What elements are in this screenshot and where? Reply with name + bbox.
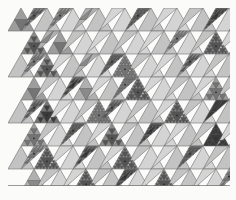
- vertex-dot: [59, 15, 61, 17]
- vertex-dot: [33, 107, 35, 109]
- bottom-margin-mask: [0, 186, 236, 200]
- vertex-dot: [150, 130, 152, 132]
- vertex-dot: [111, 61, 113, 63]
- vertex-dot: [98, 114, 100, 116]
- vertex-dot: [215, 91, 217, 93]
- vertex-dot: [33, 137, 35, 139]
- vertex-dot: [72, 84, 74, 86]
- vertex-dot: [111, 107, 113, 109]
- vertex-dot: [137, 15, 139, 17]
- vertex-dot: [189, 153, 191, 155]
- left-margin-mask: [0, 0, 8, 200]
- vertex-dot: [85, 183, 87, 185]
- vertex-dot: [215, 45, 217, 47]
- vertex-dot: [124, 176, 126, 178]
- top-margin-mask: [0, 0, 236, 8]
- vertex-dot: [163, 183, 165, 185]
- vertex-dot: [46, 68, 48, 70]
- vertex-dot: [176, 114, 178, 116]
- vertex-dot: [111, 137, 113, 139]
- vertex-dot: [137, 91, 139, 93]
- vertex-dot: [124, 68, 126, 70]
- vertex-dot: [215, 15, 217, 17]
- vertex-dot: [46, 160, 48, 162]
- vertex-dot: [33, 61, 35, 63]
- tessellation-figure: [0, 0, 236, 200]
- vertex-dot: [72, 130, 74, 132]
- vertex-dot: [85, 153, 87, 155]
- vertex-dot: [124, 160, 126, 162]
- vertex-dot: [33, 15, 35, 17]
- vertex-dot: [228, 176, 230, 178]
- triangular-tessellation-canvas: [0, 0, 236, 200]
- vertex-dot: [33, 45, 35, 47]
- vertex-dot: [33, 153, 35, 155]
- vertex-dot: [215, 137, 217, 139]
- right-margin-mask: [230, 0, 236, 200]
- vertex-dot: [124, 84, 126, 86]
- vertex-dot: [46, 114, 48, 116]
- vertex-dot: [189, 61, 191, 63]
- vertex-dot: [176, 38, 178, 40]
